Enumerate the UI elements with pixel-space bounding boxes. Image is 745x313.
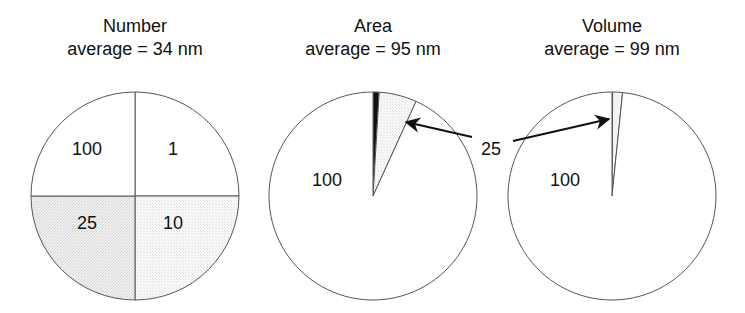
slice-label-1: 1 xyxy=(168,139,178,159)
callout-label-25: 25 xyxy=(481,139,501,159)
slice-100nm xyxy=(508,92,716,300)
slice-label-10: 10 xyxy=(163,213,183,233)
pie-charts: 10012510 100 100 25 xyxy=(0,0,745,313)
slice-label-100: 100 xyxy=(550,170,580,190)
slice-25nm xyxy=(31,196,135,300)
slice-label-100: 100 xyxy=(312,170,342,190)
volume-pie: 100 xyxy=(508,92,716,300)
slice-10nm xyxy=(135,196,239,300)
slice-100nm xyxy=(269,92,477,300)
area-pie: 100 xyxy=(269,92,477,300)
number-pie: 10012510 xyxy=(31,92,239,300)
slice-label-25: 25 xyxy=(77,213,97,233)
slice-1nm xyxy=(135,92,239,196)
slice-label-100: 100 xyxy=(72,139,102,159)
